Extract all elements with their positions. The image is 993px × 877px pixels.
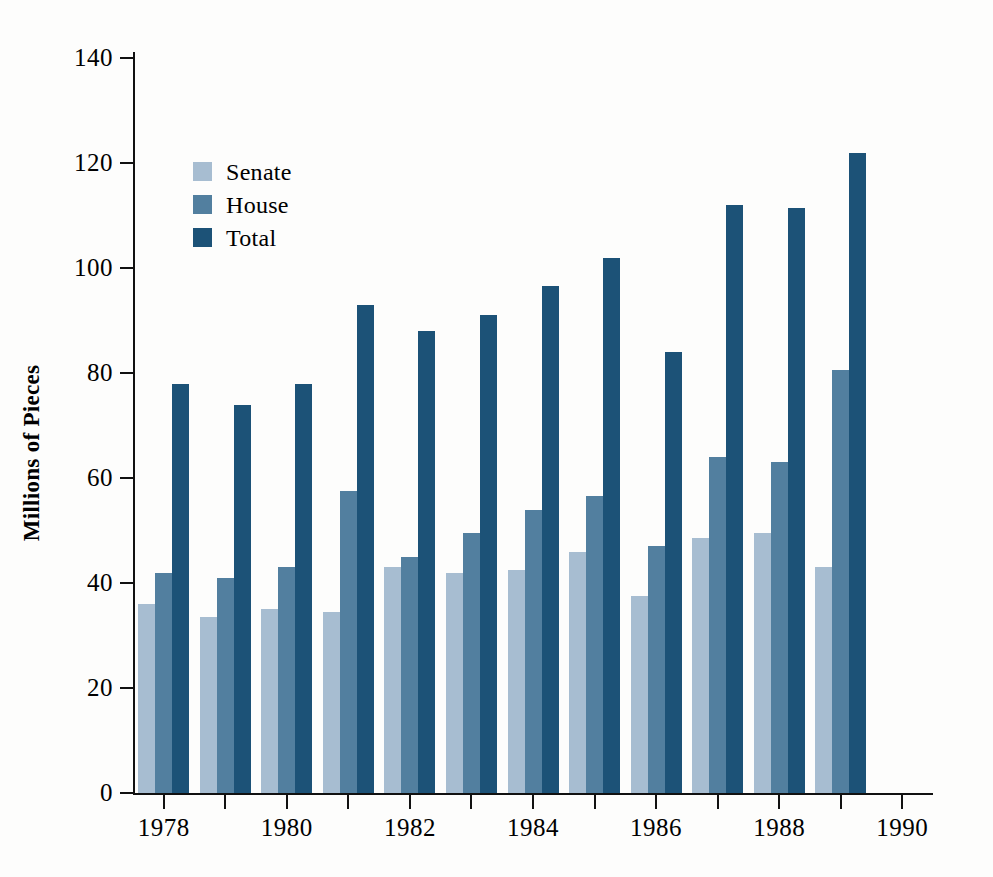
y-tick-label: 0 [43,780,113,805]
x-tick-mark [778,795,780,809]
y-tick-label: 80 [43,360,113,385]
x-tick-label: 1982 [350,815,470,840]
x-tick-mark [409,795,411,809]
legend-label: Total [226,226,276,250]
legend-label: Senate [226,160,292,184]
bar-house-1989 [832,370,849,793]
x-tick-mark [901,795,903,809]
legend-swatch-icon [193,162,212,181]
x-tick-label: 1978 [104,815,224,840]
x-tick-mark [594,795,596,809]
x-tick-mark [655,795,657,809]
y-tick-mark [120,477,133,479]
legend-item-total: Total [193,221,292,254]
chart-legend: SenateHouseTotal [193,155,292,254]
x-tick-mark [347,795,349,809]
y-tick-mark [120,792,133,794]
y-tick-label: 60 [43,465,113,490]
y-axis-title: Millions of Pieces [19,303,45,603]
bar-total-1989 [849,153,866,794]
y-tick-mark [120,687,133,689]
x-tick-mark [532,795,534,809]
y-tick-label: 140 [43,45,113,70]
bar-chart-figure: 020406080100120140 197819801982198419861… [0,0,993,877]
legend-swatch-icon [193,195,212,214]
y-tick-mark [120,582,133,584]
y-tick-label: 120 [43,150,113,175]
legend-item-senate: Senate [193,155,292,188]
y-tick-label: 40 [43,570,113,595]
y-tick-label: 20 [43,675,113,700]
y-tick-mark [120,57,133,59]
x-tick-mark [224,795,226,809]
x-tick-label: 1990 [842,815,962,840]
legend-swatch-icon [193,228,212,247]
legend-label: House [226,193,289,217]
y-tick-label: 100 [43,255,113,280]
x-tick-label: 1980 [227,815,347,840]
y-tick-mark [120,267,133,269]
x-tick-mark [470,795,472,809]
y-tick-mark [120,372,133,374]
y-tick-mark [120,162,133,164]
x-tick-mark [163,795,165,809]
legend-item-house: House [193,188,292,221]
x-tick-label: 1988 [719,815,839,840]
x-tick-label: 1986 [596,815,716,840]
bar-senate-1989 [815,567,832,793]
x-tick-mark [717,795,719,809]
x-tick-mark [840,795,842,809]
x-tick-mark [286,795,288,809]
x-tick-label: 1984 [473,815,593,840]
